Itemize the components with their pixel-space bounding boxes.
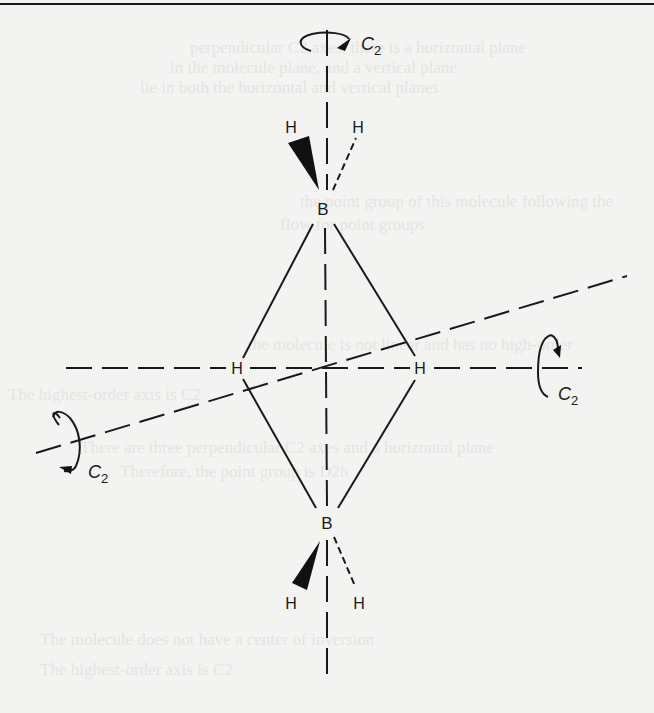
atom-boron-bottom: B bbox=[321, 514, 332, 533]
top-terminal-bonds bbox=[288, 136, 356, 190]
hash-bond-icon bbox=[333, 138, 356, 190]
atom-h-bottom-left: H bbox=[285, 595, 297, 612]
atom-h-bottom-right: H bbox=[353, 595, 365, 612]
c2-label-vertical: C2 bbox=[361, 34, 381, 58]
rotation-arrow-icon-diagonal bbox=[53, 412, 80, 474]
c2-label-horizontal: C2 bbox=[558, 384, 578, 408]
rotation-arrow-icon-vertical bbox=[301, 33, 351, 51]
atom-h-top-left: H bbox=[285, 119, 297, 136]
wedge-bond-icon bbox=[288, 136, 319, 190]
c2-label-diagonal: C2 bbox=[88, 462, 108, 486]
vertical-c2-axis bbox=[325, 30, 327, 678]
diborane-symmetry-diagram: B B H H H H H H C2 C2 C2 bbox=[0, 0, 654, 713]
bottom-terminal-bonds bbox=[292, 537, 355, 590]
atom-boron-top: B bbox=[317, 200, 328, 219]
atom-h-bridge-left: H bbox=[231, 360, 243, 377]
textbook-page: perpendicular C2 axes, there is a horizo… bbox=[0, 0, 654, 713]
hash-bond-icon bbox=[334, 537, 355, 586]
atom-h-bridge-right: H bbox=[414, 360, 426, 377]
wedge-bond-icon bbox=[292, 541, 320, 590]
atom-h-top-right: H bbox=[352, 119, 364, 136]
